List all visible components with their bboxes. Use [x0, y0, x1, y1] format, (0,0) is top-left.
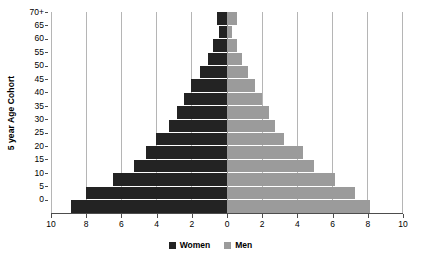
- bar-row: [51, 106, 402, 119]
- x-axis-tick-labels: 1086420246810: [51, 220, 403, 232]
- y-axis-tick-mark: [45, 159, 48, 160]
- y-axis-tick-mark: [45, 66, 48, 67]
- bar-women: [113, 173, 226, 185]
- x-axis-tick-label: 2: [260, 220, 265, 229]
- y-axis-tick-text: 20: [35, 142, 44, 151]
- y-axis-tick-text: 5: [39, 182, 44, 191]
- y-axis-tick-mark: [45, 79, 48, 80]
- bar-women: [208, 53, 226, 65]
- plot-area: [51, 12, 402, 213]
- y-axis-tick-label: 5: [20, 180, 48, 193]
- population-pyramid-chart: 5 year Age Cohort 0510152025303540455055…: [0, 0, 421, 261]
- bar-row: [51, 52, 402, 65]
- bar-row: [51, 159, 402, 172]
- bar-men: [227, 120, 275, 132]
- bar-men: [227, 173, 336, 185]
- bar-row: [51, 92, 402, 105]
- y-axis-tick-text: 15: [35, 155, 44, 164]
- bar-women: [71, 200, 226, 212]
- y-axis-tick-label: 65: [20, 19, 48, 32]
- gridline: [402, 12, 403, 213]
- x-axis-tick-label: 6: [119, 220, 124, 229]
- x-axis-tick-mark: [297, 214, 298, 218]
- bar-women: [177, 106, 226, 118]
- legend-swatch-icon: [169, 242, 176, 249]
- legend-label: Men: [235, 241, 252, 250]
- y-axis-tick-label: 45: [20, 72, 48, 85]
- y-axis-tick-label: 20: [20, 139, 48, 152]
- x-axis-tick-label: 4: [154, 220, 159, 229]
- y-axis-tick-mark: [45, 133, 48, 134]
- bar-women: [191, 79, 227, 91]
- bar-men: [227, 187, 355, 199]
- y-axis-tick-mark: [45, 146, 48, 147]
- bar-men: [227, 160, 315, 172]
- x-axis-tick-label: 0: [225, 220, 230, 229]
- bar-women: [219, 26, 226, 38]
- x-axis-tick-mark: [121, 214, 122, 218]
- x-axis-tick-mark: [333, 214, 334, 218]
- bar-women: [134, 160, 227, 172]
- y-axis-tick-text: 55: [35, 48, 44, 57]
- x-axis-tick-label: 10: [46, 220, 55, 229]
- y-axis-tick-text: 40: [35, 88, 44, 97]
- bar-row: [51, 39, 402, 52]
- y-axis-tick-label: 10: [20, 166, 48, 179]
- bar-women: [184, 93, 226, 105]
- y-axis-tick-text: 35: [35, 102, 44, 111]
- y-axis-tick-text: 65: [35, 21, 44, 30]
- legend-label: Women: [180, 241, 211, 250]
- bar-women: [217, 12, 227, 24]
- bar-men: [227, 53, 243, 65]
- y-axis-tick-label: 0: [20, 193, 48, 206]
- y-axis-tick-mark: [45, 92, 48, 93]
- y-axis-title: 5 year Age Cohort: [0, 0, 22, 225]
- x-axis-tick-mark: [157, 214, 158, 218]
- y-axis-tick-label: 40: [20, 86, 48, 99]
- y-axis-tick-mark: [45, 52, 48, 53]
- y-axis-tick-label: 15: [20, 153, 48, 166]
- y-axis-tick-label: 25: [20, 126, 48, 139]
- x-axis-tick-mark: [51, 214, 52, 218]
- x-axis-tick-label: 8: [365, 220, 370, 229]
- bar-row: [51, 173, 402, 186]
- x-axis-tick-mark: [403, 214, 404, 218]
- bar-row: [51, 133, 402, 146]
- x-axis-tick-mark: [368, 214, 369, 218]
- x-axis-tick-label: 2: [189, 220, 194, 229]
- y-axis-tick-mark: [45, 119, 48, 120]
- bar-row: [51, 79, 402, 92]
- chart-legend: WomenMen: [0, 241, 421, 250]
- y-axis-tick-label: 60: [20, 32, 48, 45]
- y-axis-tick-mark: [45, 173, 48, 174]
- x-axis-tick-mark: [192, 214, 193, 218]
- bar-row: [51, 146, 402, 159]
- bar-men: [227, 66, 248, 78]
- y-axis-tick-text: 0: [39, 195, 44, 204]
- bar-women: [169, 120, 227, 132]
- bar-men: [227, 39, 238, 51]
- y-axis-tick-text: 70+: [30, 8, 44, 17]
- x-axis-tick-label: 8: [84, 220, 89, 229]
- bar-row: [51, 200, 402, 213]
- bar-row: [51, 119, 402, 132]
- legend-entry[interactable]: Men: [224, 241, 252, 250]
- bar-women: [200, 66, 226, 78]
- bar-row: [51, 25, 402, 38]
- y-axis-tick-label: 70+: [20, 5, 48, 18]
- bar-women: [146, 146, 226, 158]
- x-axis-tick-label: 10: [398, 220, 407, 229]
- y-axis-tick-text: 50: [35, 61, 44, 70]
- bar-men: [227, 93, 263, 105]
- x-axis-tick-mark: [262, 214, 263, 218]
- legend-swatch-icon: [224, 242, 231, 249]
- bar-men: [227, 146, 303, 158]
- bar-rows: [51, 12, 402, 213]
- bar-men: [227, 26, 232, 38]
- legend-entry[interactable]: Women: [169, 241, 211, 250]
- y-axis-tick-mark: [45, 39, 48, 40]
- y-axis-tick-text: 30: [35, 115, 44, 124]
- bar-men: [227, 106, 270, 118]
- bar-row: [51, 12, 402, 25]
- y-axis-tick-text: 10: [35, 169, 44, 178]
